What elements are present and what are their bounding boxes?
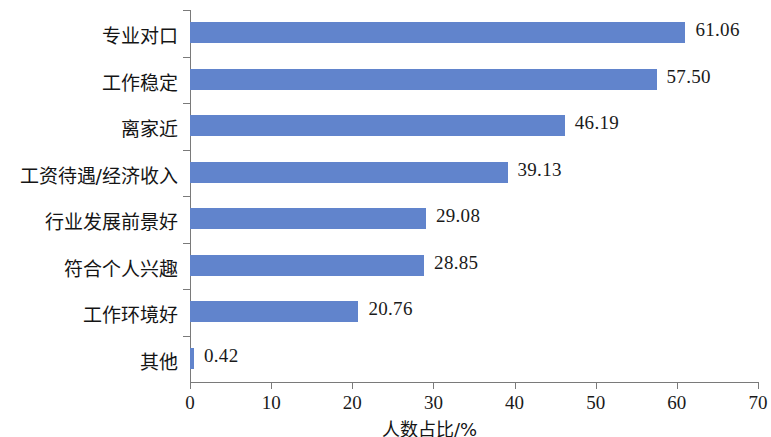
x-axis-tick xyxy=(190,383,191,389)
y-axis-tick xyxy=(183,336,190,337)
x-axis-title-text: 人数占比/% xyxy=(382,415,477,437)
x-axis-tick xyxy=(758,383,759,389)
bar-row: 39.13 xyxy=(190,150,758,195)
bar xyxy=(190,22,685,43)
bar-value-label: 28.85 xyxy=(434,252,478,274)
y-axis-tick xyxy=(183,150,190,151)
bar-chart-figure: 专业对口工作稳定离家近工资待遇/经济收入行业发展前景好符合个人兴趣工作环境好其他… xyxy=(0,0,771,437)
x-axis-tick xyxy=(515,383,516,389)
x-axis-title: 人数占比/% xyxy=(0,415,771,437)
x-axis-tick xyxy=(433,383,434,389)
bar-value-label: 39.13 xyxy=(518,159,562,181)
x-axis-tick-label: 30 xyxy=(424,392,443,414)
x-axis-tick xyxy=(352,383,353,389)
bar-value-label: 61.06 xyxy=(695,19,739,41)
bar-row: 20.76 xyxy=(190,289,758,334)
bar xyxy=(190,115,565,136)
bar-value-label: 0.42 xyxy=(204,345,238,367)
bar-value-label: 29.08 xyxy=(436,205,480,227)
bar-row: 0.42 xyxy=(190,336,758,381)
y-axis-category-label: 离家近 xyxy=(0,114,178,141)
y-axis-category-labels: 专业对口工作稳定离家近工资待遇/经济收入行业发展前景好符合个人兴趣工作环境好其他 xyxy=(0,10,184,382)
x-axis-tick-label: 70 xyxy=(749,392,768,414)
x-axis-tick-label: 0 xyxy=(185,392,195,414)
y-axis-category-label: 工作稳定 xyxy=(0,68,178,95)
y-axis-category-label: 工资待遇/经济收入 xyxy=(0,161,178,188)
y-axis-tick xyxy=(183,10,190,11)
bar xyxy=(190,162,508,183)
x-axis-tick xyxy=(677,383,678,389)
bar xyxy=(190,348,194,369)
bar xyxy=(190,301,358,322)
bar-value-label: 57.50 xyxy=(667,66,711,88)
x-axis-tick-label: 20 xyxy=(343,392,362,414)
x-axis-tick xyxy=(596,383,597,389)
plot-area: 61.0657.5046.1939.1329.0828.8520.760.42 xyxy=(190,10,758,382)
y-axis-tick xyxy=(183,103,190,104)
bar-row: 46.19 xyxy=(190,103,758,148)
bar-row: 61.06 xyxy=(190,10,758,55)
bar-value-label: 46.19 xyxy=(575,112,619,134)
y-axis-category-label: 行业发展前景好 xyxy=(0,207,178,234)
bar-value-label: 20.76 xyxy=(368,298,412,320)
x-axis-tick-label: 10 xyxy=(262,392,281,414)
y-axis-tick xyxy=(183,57,190,58)
y-axis-category-label: 专业对口 xyxy=(0,21,178,48)
bar xyxy=(190,69,657,90)
y-axis-category-label: 其他 xyxy=(0,347,178,374)
y-axis-category-label: 符合个人兴趣 xyxy=(0,254,178,281)
y-axis-category-label: 工作环境好 xyxy=(0,300,178,327)
bar-row: 29.08 xyxy=(190,196,758,241)
x-axis-line xyxy=(190,382,759,383)
y-axis-tick xyxy=(183,289,190,290)
x-axis-tick-label: 40 xyxy=(505,392,524,414)
x-axis-tick-label: 50 xyxy=(586,392,605,414)
bar-row: 57.50 xyxy=(190,57,758,102)
bar-row: 28.85 xyxy=(190,243,758,288)
y-axis-tick xyxy=(183,196,190,197)
x-axis-tick xyxy=(271,383,272,389)
x-axis-tick-label: 60 xyxy=(667,392,686,414)
bar xyxy=(190,208,426,229)
bar xyxy=(190,255,424,276)
y-axis-tick xyxy=(183,243,190,244)
